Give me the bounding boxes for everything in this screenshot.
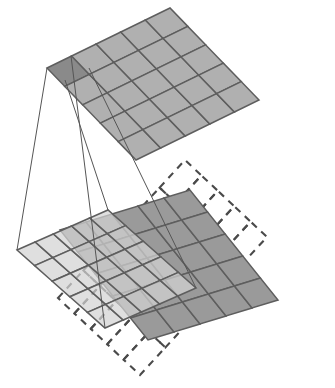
connector-line	[17, 68, 47, 250]
output-feature-map-layer	[47, 8, 259, 160]
figure-canvas: Convolution receptive-field projection d…	[0, 0, 335, 388]
convolution-projection-diagram	[0, 0, 335, 388]
grid-cell	[124, 332, 166, 375]
